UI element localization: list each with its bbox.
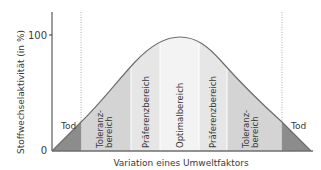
zone-tod-right [282,20,312,151]
y-tick-label-0: 0 [41,145,47,156]
x-axis-label: Variation eines Umweltfaktors [113,158,249,168]
zone-label-praeferenz-left: Präferenzbereich [141,76,151,148]
zone-tod-left [52,20,81,151]
zone-label-tod-left: Tod [60,121,76,131]
y-tick-label-100: 100 [28,30,47,41]
svg-text:bereich: bereich [104,116,114,148]
tolerance-curve-diagram: 100 0 Stoffwechselaktivität (in %) Varia… [0,0,321,170]
zone-label-tod-right: Tod [290,121,306,131]
zone-label-optimal: Optimalbereich [175,83,185,148]
y-axis-label: Stoffwechselaktivität (in %) [16,30,26,154]
zone-label-praeferenz-right: Präferenzbereich [208,76,218,148]
svg-text:bereich: bereich [250,116,260,148]
